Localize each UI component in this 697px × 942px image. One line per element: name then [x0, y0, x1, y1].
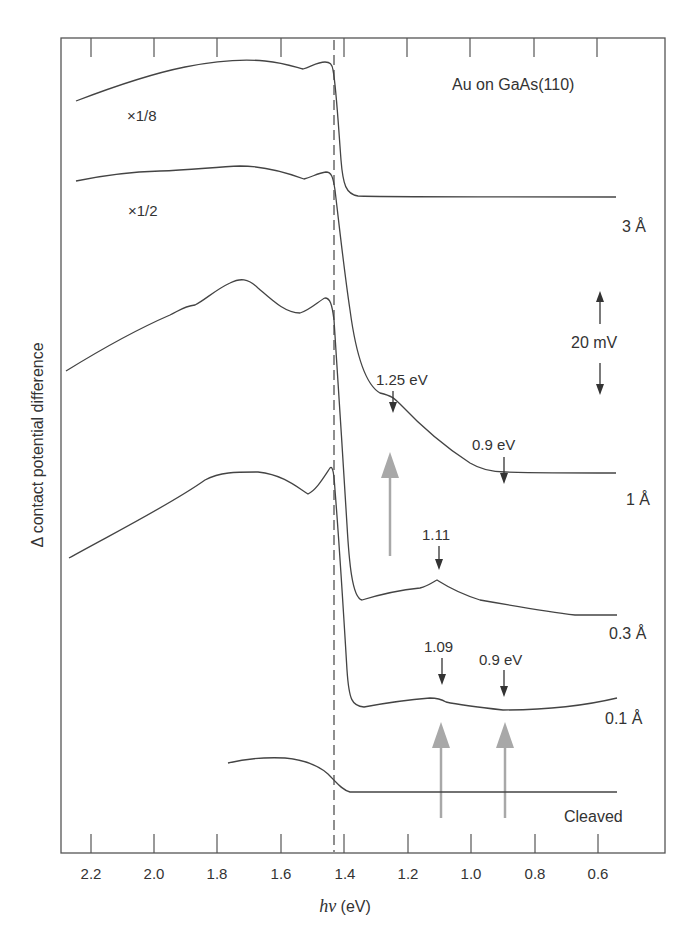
x-tick-label: 1.6 [271, 866, 292, 881]
gray-arrows [381, 452, 514, 818]
scale-factor-1-8: ×1/8 [127, 108, 157, 123]
arrow-down-icon [435, 559, 443, 570]
scale-arrow-down-icon [596, 384, 604, 395]
annotation-1-25eV: 1.25 eV [376, 372, 428, 387]
curves [66, 60, 617, 792]
x-tick-label: 0.6 [588, 866, 609, 881]
curve-label-1A: 1 Å [626, 492, 650, 508]
annotation-arrows [389, 291, 604, 697]
arrow-down-icon [389, 402, 397, 413]
arrow-down-icon [500, 473, 508, 484]
scale-factor-1-2: ×1/2 [128, 203, 158, 218]
annotation-1-11: 1.11 [422, 527, 450, 542]
x-tick-label: 1.0 [461, 866, 482, 881]
x-tick-label: 2.0 [144, 866, 165, 881]
curve-03A [66, 280, 617, 615]
arrow-down-icon [438, 674, 446, 685]
chart-canvas [0, 0, 697, 942]
curve-label-cleaved: Cleaved [564, 809, 623, 825]
scale-bar-label: 20 mV [571, 335, 617, 351]
chart-title: Au on GaAs(110) [452, 77, 574, 93]
top-ticks [91, 38, 597, 57]
bottom-ticks [91, 834, 598, 853]
annotation-1-09: 1.09 [424, 639, 453, 654]
plot-frame [61, 38, 665, 853]
x-axis-label: hν (eV) [319, 896, 371, 917]
curve-label-03A: 0.3 Å [609, 626, 646, 642]
annotation-0-9eV-01A: 0.9 eV [479, 652, 522, 667]
x-tick-label: 1.4 [335, 866, 356, 881]
x-tick-label: 1.2 [398, 866, 419, 881]
x-tick-label: 1.8 [207, 866, 228, 881]
annotation-0-9eV-1A: 0.9 eV [472, 437, 515, 452]
gray-arrow-up-icon [381, 452, 399, 478]
scale-arrow-up-icon [596, 291, 604, 302]
curve-cleaved [228, 758, 617, 792]
gray-arrow-up-icon [496, 722, 514, 748]
x-axis-label-symbol: hν [319, 896, 336, 916]
curve-label-3A: 3 Å [622, 219, 646, 235]
x-tick-label: 2.2 [81, 866, 102, 881]
gray-arrow-up-icon [432, 722, 450, 748]
curve-label-01A: 0.1 Å [605, 711, 642, 727]
curve-01A [69, 467, 617, 710]
x-tick-label: 0.8 [525, 866, 546, 881]
y-axis-label: Δ contact potential difference [29, 342, 47, 547]
x-axis-label-unit: (eV) [336, 898, 371, 915]
arrow-down-icon [500, 686, 508, 697]
